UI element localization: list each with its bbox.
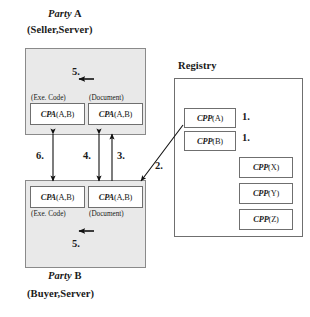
party-a-title: Party A bbox=[48, 8, 82, 19]
registry-item-cpp-b-roman: (B) bbox=[212, 137, 223, 146]
connector-step-4-label: 4. bbox=[83, 150, 91, 161]
party-b-document-box: CPA(A,B) bbox=[88, 186, 143, 208]
party-b-title-roman: B bbox=[75, 270, 82, 281]
connector-step-2-label: 2. bbox=[155, 160, 163, 171]
registry-item-cpp-z: CPP(Z) bbox=[239, 209, 293, 230]
registry-item-cpp-x: CPP(X) bbox=[239, 157, 293, 178]
party-a-exe-code-box: CPA(A,B) bbox=[30, 103, 85, 125]
party-b-title-italic: Party bbox=[48, 270, 72, 281]
registry-item-cpp-z-italic: CPP bbox=[253, 215, 268, 224]
registry-step-1-b: 1. bbox=[242, 132, 250, 143]
party-a-title-roman: A bbox=[74, 8, 82, 19]
registry-item-cpp-x-roman: (X) bbox=[268, 163, 279, 172]
party-b-title: Party B bbox=[48, 270, 82, 281]
registry-title: Registry bbox=[178, 60, 217, 71]
party-a-exe-code-box-italic: CPA bbox=[41, 110, 56, 119]
party-a-document-box-roman: (A,B) bbox=[114, 110, 132, 119]
registry-item-cpp-b: CPP(B) bbox=[184, 131, 236, 151]
party-b-exe-code-box-italic: CPA bbox=[41, 193, 56, 202]
party-a-document-label: (Document) bbox=[89, 94, 124, 102]
connector-step-3-label: 3. bbox=[117, 150, 125, 161]
party-b-document-box-italic: CPA bbox=[99, 193, 114, 202]
party-b-document-box-roman: (A,B) bbox=[114, 193, 132, 202]
party-b-exe-code-box-roman: (A,B) bbox=[56, 193, 74, 202]
party-b-subtitle: (Buyer,Server) bbox=[27, 288, 94, 299]
registry-step-1-a: 1. bbox=[242, 111, 250, 122]
party-b-document-label: (Document) bbox=[89, 210, 124, 218]
party-a-exe-code-label: (Exe. Code) bbox=[31, 94, 66, 102]
party-b-exe-code-label: (Exe. Code) bbox=[31, 210, 66, 218]
connector-step-6-label: 6. bbox=[36, 150, 44, 161]
party-b-exe-code-box: CPA(A,B) bbox=[30, 186, 85, 208]
registry-item-cpp-a-roman: (A) bbox=[212, 114, 223, 123]
party-b-step-5-label: 5. bbox=[72, 238, 80, 249]
registry-item-cpp-b-italic: CPP bbox=[197, 137, 212, 146]
registry-item-cpp-a-italic: CPP bbox=[197, 114, 212, 123]
party-a-title-italic: Party bbox=[48, 8, 72, 19]
registry-item-cpp-a: CPP(A) bbox=[184, 108, 236, 128]
registry-item-cpp-y: CPP(Y) bbox=[239, 183, 293, 204]
party-a-document-box-italic: CPA bbox=[99, 110, 114, 119]
party-a-step-5-label: 5. bbox=[72, 66, 80, 77]
party-a-document-box: CPA(A,B) bbox=[88, 103, 143, 125]
diagram-canvas: Party A (Seller,Server) 5. (Exe. Code) (… bbox=[0, 0, 310, 317]
registry-item-cpp-y-italic: CPP bbox=[253, 189, 268, 198]
registry-item-cpp-z-roman: (Z) bbox=[269, 215, 279, 224]
party-a-subtitle: (Seller,Server) bbox=[27, 24, 93, 35]
registry-item-cpp-x-italic: CPP bbox=[253, 163, 268, 172]
registry-item-cpp-y-roman: (Y) bbox=[268, 189, 279, 198]
party-a-exe-code-box-roman: (A,B) bbox=[56, 110, 74, 119]
